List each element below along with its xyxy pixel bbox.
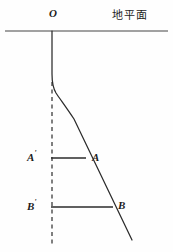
label-b-prime: B' [27,199,37,212]
label-b-prime-mark: ' [34,198,36,207]
label-origin-o: O [49,8,57,19]
physics-diagram-figure: O 地平面 A' A B' B [0,0,173,252]
label-point-a: A [92,152,99,163]
label-ground-plane: 地平面 [112,10,148,21]
label-a-prime-mark: ' [34,149,36,158]
label-a-prime: A' [27,150,37,163]
diagram-canvas [0,0,173,252]
label-point-b: B [118,200,125,211]
